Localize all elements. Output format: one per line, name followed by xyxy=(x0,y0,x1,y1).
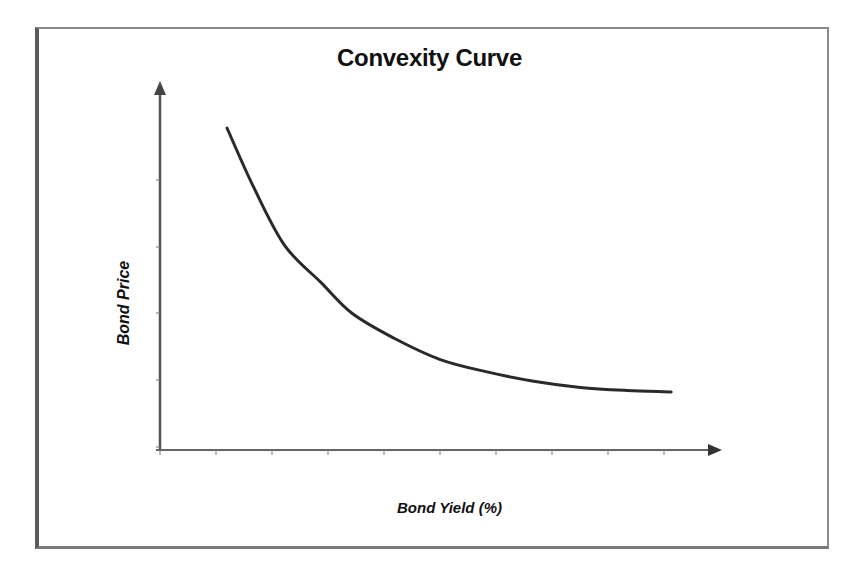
convexity-curve-line xyxy=(227,128,671,392)
y-axis-arrow-icon xyxy=(154,81,166,95)
axes xyxy=(154,81,722,456)
plot-area xyxy=(0,0,859,585)
x-axis-arrow-icon xyxy=(708,444,722,456)
